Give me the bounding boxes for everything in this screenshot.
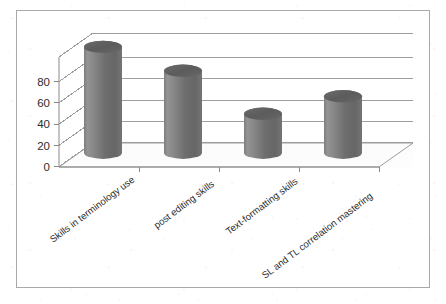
y-tick-label-60: 60 — [37, 97, 50, 109]
y-tick-label-20: 20 — [37, 140, 50, 152]
bar-cylinder-4[interactable] — [324, 90, 362, 159]
bar-chart: 80 60 40 20 0 Skills in — [17, 11, 429, 287]
x-category-label-1: Skills in terminology use — [48, 174, 137, 245]
y-tick-label-40: 40 — [37, 118, 50, 130]
bar-cylinder-2[interactable] — [164, 65, 202, 159]
chart-frame: 80 60 40 20 0 Skills in — [16, 10, 430, 288]
bar-cylinder-1[interactable] — [84, 41, 122, 159]
bar-cylinder-3[interactable] — [244, 108, 282, 159]
y-tick-label-0: 0 — [44, 161, 50, 173]
x-category-label-4: SL and TL correlation mastering — [260, 190, 375, 280]
y-tick-label-80: 80 — [37, 76, 50, 88]
x-category-label-3: Text-formatting skills — [224, 175, 300, 236]
x-category-label-2: post editing skills — [152, 178, 217, 231]
